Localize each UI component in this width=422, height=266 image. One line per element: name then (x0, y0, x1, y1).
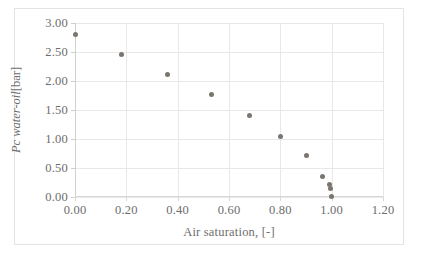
x-axis-tick-label: 0.80 (269, 203, 292, 218)
gridline-vertical (229, 23, 230, 197)
y-axis-tick (71, 168, 75, 169)
y-axis-line (75, 23, 76, 197)
x-axis-tick-label: 1.00 (320, 203, 343, 218)
y-axis-tick-label: 1.50 (45, 103, 68, 118)
x-axis-tick (126, 197, 127, 201)
data-point (165, 72, 170, 77)
plot-area: 0.000.501.001.502.002.503.000.000.200.40… (75, 23, 383, 197)
x-axis-tick-label: 0.00 (64, 203, 87, 218)
y-axis-title-variable: Pc water-oil (9, 91, 23, 153)
y-axis-tick (71, 110, 75, 111)
y-axis-tick-label: 3.00 (45, 16, 68, 31)
gridline-vertical (126, 23, 127, 197)
y-axis-tick (71, 23, 75, 24)
y-axis-tick-label: 0.50 (45, 161, 68, 176)
data-point (119, 52, 124, 57)
data-point (304, 153, 309, 158)
y-axis-title-unit: [bar] (9, 67, 23, 91)
data-point (320, 174, 325, 179)
data-point (209, 92, 214, 97)
x-axis-title: Air saturation, [-] (75, 225, 383, 240)
gridline-vertical (178, 23, 179, 197)
data-point (73, 32, 78, 37)
data-point (328, 186, 333, 191)
y-axis-tick-label: 2.00 (45, 74, 68, 89)
x-axis-tick (75, 197, 76, 201)
x-axis-tick-label: 0.60 (218, 203, 241, 218)
x-axis-tick (280, 197, 281, 201)
gridline-vertical (280, 23, 281, 197)
gridline-vertical (383, 23, 384, 197)
x-axis-tick (383, 197, 384, 201)
chart-figure: 0.000.501.001.502.002.503.000.000.200.40… (14, 8, 404, 245)
data-point (247, 113, 252, 118)
gridline-vertical (332, 23, 333, 197)
x-axis-tick (178, 197, 179, 201)
x-axis-tick-label: 0.20 (115, 203, 138, 218)
x-axis-tick (229, 197, 230, 201)
y-axis-tick-label: 1.00 (45, 132, 68, 147)
y-axis-tick (71, 52, 75, 53)
y-axis-tick (71, 81, 75, 82)
data-point (329, 194, 334, 199)
x-axis-tick-label: 1.20 (372, 203, 395, 218)
x-axis-tick-label: 0.40 (166, 203, 189, 218)
data-point (278, 134, 283, 139)
y-axis-tick-label: 2.50 (45, 45, 68, 60)
y-axis-title: Pc water-oil[bar] (9, 23, 25, 197)
y-axis-tick (71, 139, 75, 140)
